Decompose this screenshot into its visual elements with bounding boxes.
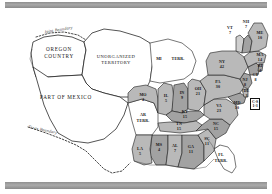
state-label-VT-votes: 7 — [223, 31, 237, 35]
state-label-PA-votes: 30 — [211, 85, 225, 89]
state-label-VA-votes: 23 — [212, 109, 226, 113]
state-label-MD-votes: 10 — [230, 106, 244, 110]
state-label-NY-votes: 42 — [215, 65, 229, 69]
state-label-MA-votes: 14 — [253, 58, 267, 62]
bottom-divider-bar — [5, 182, 267, 189]
region-label-florida-territory-line1: FL — [214, 153, 228, 157]
region-label-oregon-country-line2: COUNTRY — [36, 54, 82, 59]
map-label-layer: OREGON COUNTRY UNORGANIZED TERRITORY PAR… — [0, 9, 272, 179]
region-label-oregon-country-line1: OREGON — [36, 47, 82, 52]
state-label-NJ-votes: 8 — [239, 83, 251, 87]
state-label-MO-votes: 4 — [136, 98, 150, 102]
legend-key-box: C-S 1-3 — [250, 98, 260, 110]
legend-key-line2: 1-3 — [252, 104, 258, 108]
region-label-unorganized-territory-line2: TERRITORY — [86, 61, 146, 66]
region-label-michigan-territory-line2: TERR. — [168, 57, 188, 61]
region-label-unorganized-territory-line1: UNORGANIZED — [86, 55, 146, 60]
state-label-LA-votes: 5 — [133, 152, 147, 156]
region-label-arkansas-territory-line1: AR — [134, 113, 152, 117]
state-label-OH-votes: 21 — [191, 92, 205, 96]
state-label-IN-votes: 9 — [175, 96, 189, 100]
region-label-arkansas-territory-line2: TERR. — [132, 119, 154, 123]
figure-root: .o{fill:#ffffff;stroke:#1b1b1b;stroke-wi… — [0, 0, 272, 194]
boundary-label-joint-boundary: Joint Boundary — [44, 25, 73, 34]
state-label-NH-votes: 7 — [239, 25, 253, 29]
state-label-GA-votes: 11 — [184, 150, 198, 154]
state-label-NC-votes: 15 — [209, 127, 223, 131]
state-label-IL-votes: 5 — [159, 99, 173, 103]
region-label-part-of-mexico: PART OF MEXICO — [28, 95, 104, 100]
state-label-ME-votes: 10 — [253, 36, 267, 40]
state-label-AL-votes: 7 — [168, 149, 182, 153]
state-label-TN-votes: 15 — [172, 127, 186, 131]
state-label-MS-votes: 4 — [152, 148, 166, 152]
state-label-KY-votes: 15 — [178, 115, 192, 119]
region-label-michigan-territory-line1: MI — [152, 57, 166, 61]
region-label-florida-territory-line2: TERR. — [211, 159, 231, 163]
top-divider-bar — [5, 2, 267, 8]
boundary-label-texas-boundary: Texas Boundary — [28, 124, 58, 135]
state-label-SC-votes: 11 — [200, 142, 214, 146]
